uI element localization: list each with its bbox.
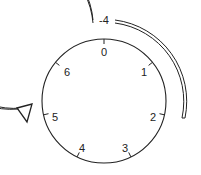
- rotation-label: -4: [99, 14, 109, 26]
- position-label-2: 2: [150, 111, 156, 123]
- dial-diagram: -4 0 1 2 3 4 5 6: [0, 0, 201, 175]
- position-label-5: 5: [52, 111, 58, 123]
- position-label-3: 3: [122, 142, 128, 154]
- position-label-0: 0: [101, 46, 107, 58]
- arrowhead-icon: [17, 104, 32, 122]
- rotation-arrow: [0, 0, 187, 122]
- position-label-4: 4: [79, 142, 85, 154]
- position-label-1: 1: [141, 66, 147, 78]
- position-label-6: 6: [64, 66, 70, 78]
